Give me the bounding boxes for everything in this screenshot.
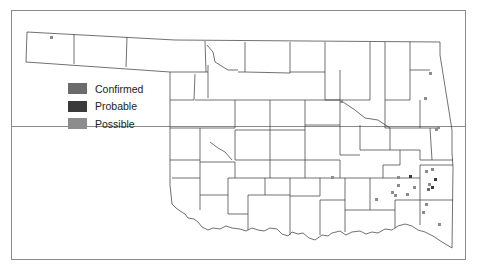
point-marker [409,175,412,178]
point-marker [438,223,441,226]
point-marker [397,176,400,179]
legend-label: Possible [95,118,135,130]
legend-label: Probable [95,100,137,112]
point-marker [431,186,434,189]
point-marker [431,168,434,171]
point-marker [437,126,440,129]
point-marker [375,198,378,201]
point-marker [50,36,53,39]
oklahoma-county-map [0,0,479,272]
point-marker [394,194,397,197]
point-marker [427,188,430,191]
point-marker [428,183,431,186]
legend-item-possible: Possible [68,115,143,133]
point-marker [424,97,427,100]
point-marker [434,178,437,181]
legend-item-probable: Probable [68,98,143,116]
confirmed-swatch-icon [68,83,87,94]
point-marker [429,72,432,75]
probable-swatch-icon [68,101,87,112]
point-marker [340,100,343,103]
possible-swatch-icon [68,118,87,129]
map-frame-outer [12,11,466,260]
point-marker [331,176,334,179]
point-marker [425,170,428,173]
state-outline [26,32,453,248]
legend-item-confirmed: Confirmed [68,80,143,98]
point-marker [391,191,394,194]
legend-label: Confirmed [95,83,143,95]
point-marker [422,211,425,214]
point-marker [425,203,428,206]
point-marker [406,193,409,196]
county-boundaries [26,32,453,248]
map-legend: Confirmed Probable Possible [68,80,143,133]
point-marker [397,184,400,187]
point-marker [413,186,416,189]
